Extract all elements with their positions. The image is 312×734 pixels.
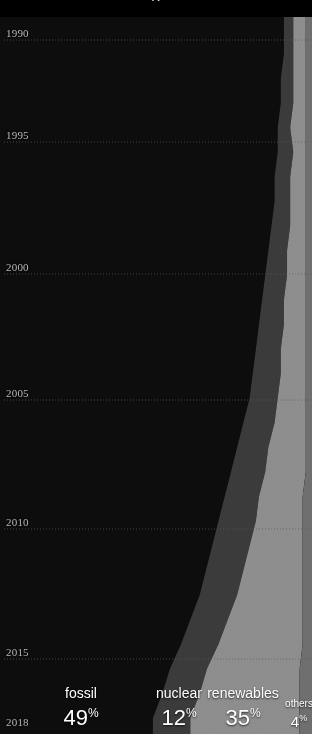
area-bands (0, 17, 312, 734)
chart-root: g 1990199520002005201020152018 fossil49%… (0, 0, 312, 734)
stacked-area-plot (0, 0, 312, 734)
year-tick-2015: 2015 (6, 647, 29, 658)
year-tick-2005: 2005 (6, 388, 29, 399)
year-tick-1995: 1995 (6, 130, 29, 141)
year-tick-2018: 2018 (6, 717, 29, 728)
year-tick-1990: 1990 (6, 28, 29, 39)
year-tick-2000: 2000 (6, 262, 29, 273)
year-tick-2010: 2010 (6, 517, 29, 528)
